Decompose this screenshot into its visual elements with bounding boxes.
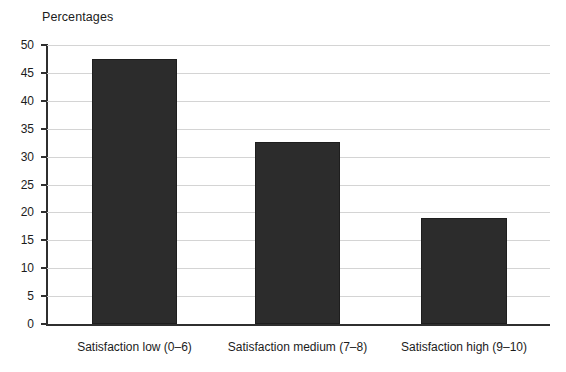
bar xyxy=(255,142,340,324)
x-axis-tick-label: Satisfaction low (0–6) xyxy=(45,340,225,354)
chart-title: Percentages xyxy=(42,10,113,24)
y-axis-tick-label: 45 xyxy=(0,67,34,79)
bar xyxy=(421,218,507,324)
y-axis-tick-label: 35 xyxy=(0,123,34,135)
bar-chart-figure: Percentages 05101520253035404550 Satisfa… xyxy=(0,0,566,372)
y-axis-tick-label: 30 xyxy=(0,151,34,163)
x-axis-tick-label: Satisfaction high (9–10) xyxy=(374,340,554,354)
x-axis-tick-label: Satisfaction medium (7–8) xyxy=(208,340,388,354)
y-axis-tick-label: 5 xyxy=(0,290,34,302)
plot-area xyxy=(47,45,550,324)
gridline xyxy=(47,45,550,46)
y-axis-tick-label: 10 xyxy=(0,262,34,274)
x-axis-baseline xyxy=(47,324,550,326)
y-axis-tick-label: 20 xyxy=(0,206,34,218)
bar xyxy=(92,59,177,324)
y-axis-tick-label: 15 xyxy=(0,234,34,246)
y-axis-tick-label: 25 xyxy=(0,179,34,191)
y-axis-tick-label: 50 xyxy=(0,39,34,51)
y-axis-tick-label: 40 xyxy=(0,95,34,107)
y-axis-tick-label: 0 xyxy=(0,318,34,330)
